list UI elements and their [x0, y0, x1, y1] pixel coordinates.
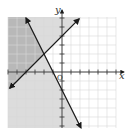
coordinate-graph: x y O: [0, 0, 131, 134]
origin-label: O: [57, 74, 63, 82]
x-axis-label: x: [119, 70, 125, 81]
shaded-regions: [0, 0, 131, 134]
y-axis-label: y: [54, 4, 61, 15]
